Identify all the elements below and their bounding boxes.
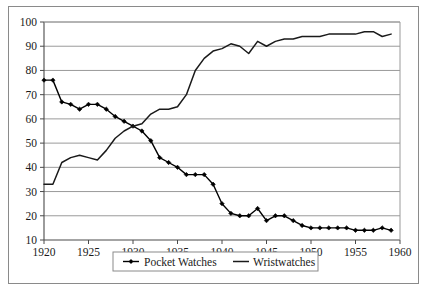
x-axis-tick-marks	[44, 240, 400, 244]
y-tick-label: 60	[26, 113, 38, 125]
data-point-marker	[371, 228, 375, 232]
y-tick-label: 80	[26, 64, 38, 76]
data-point-marker	[353, 228, 357, 232]
grid-lines	[44, 22, 400, 216]
data-point-marker	[60, 100, 64, 104]
series-line	[44, 32, 391, 185]
data-point-marker	[309, 226, 313, 230]
plot-area-border	[44, 22, 400, 240]
x-tick-label: 1920	[33, 246, 56, 258]
data-point-marker	[51, 78, 55, 82]
y-tick-label: 10	[26, 234, 38, 246]
x-tick-label: 1925	[77, 246, 100, 258]
y-axis-tick-labels: 102030405060708090100	[20, 16, 38, 246]
y-tick-label: 70	[26, 89, 38, 101]
data-series-layer	[42, 32, 394, 233]
data-point-marker	[389, 228, 393, 232]
data-point-marker	[344, 226, 348, 230]
data-point-marker	[380, 226, 384, 230]
data-point-marker	[238, 214, 242, 218]
y-tick-label: 40	[26, 161, 38, 173]
line-chart: 102030405060708090100 192019251930193519…	[0, 0, 427, 296]
y-axis-tick-marks	[40, 22, 44, 240]
data-point-marker	[336, 226, 340, 230]
legend-label-wristwatches: Wristwatches	[253, 256, 316, 268]
data-point-marker	[327, 226, 331, 230]
y-tick-label: 20	[26, 210, 38, 222]
chart-legend: Pocket WatchesWristwatches	[113, 252, 318, 271]
y-tick-label: 90	[26, 40, 38, 52]
data-point-marker	[318, 226, 322, 230]
chart-figure: 102030405060708090100 192019251930193519…	[0, 0, 427, 296]
x-tick-label: 1955	[344, 246, 367, 258]
y-tick-label: 30	[26, 186, 38, 198]
series-line	[44, 80, 391, 230]
data-point-marker	[193, 172, 197, 176]
legend-label-pocket-watches: Pocket Watches	[144, 256, 217, 268]
data-point-marker	[42, 78, 46, 82]
data-point-marker	[362, 228, 366, 232]
x-tick-label: 1960	[389, 246, 412, 258]
y-tick-label: 50	[26, 137, 38, 149]
y-tick-label: 100	[20, 16, 38, 28]
